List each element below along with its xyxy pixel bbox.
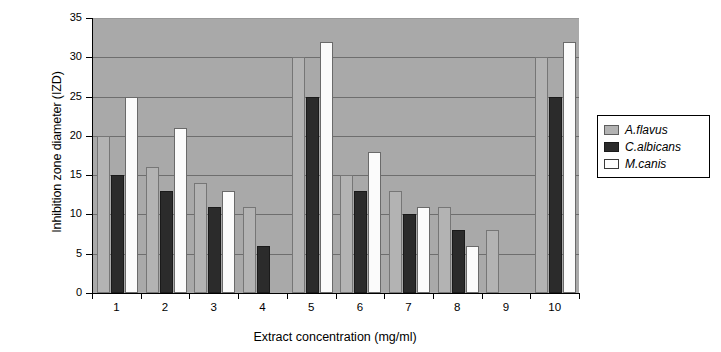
y-tick-label-30: 30 [52,50,82,62]
x-tick-label-6: 6 [340,301,380,313]
bar-a-flavus-10 [535,57,548,293]
y-tick-label-0: 0 [52,286,82,298]
legend-item-c-albicans: C.albicans [604,138,703,155]
x-tick-6 [336,294,337,299]
x-tick-label-4: 4 [242,301,282,313]
bar-c-albicans-6 [354,191,367,293]
bar-a-flavus-5 [292,57,305,293]
x-tick-label-10: 10 [535,301,575,313]
x-tick-1 [92,294,93,299]
y-tick-5 [86,254,92,255]
x-tick-8 [433,294,434,299]
gridline-25 [93,97,579,98]
bar-c-albicans-5 [306,97,319,293]
y-tick-30 [86,57,92,58]
x-tick-label-3: 3 [194,301,234,313]
x-tick-4 [238,294,239,299]
bar-m-canis-7 [417,207,430,293]
bar-c-albicans-2 [160,191,173,293]
bar-c-albicans-4 [257,246,270,293]
y-tick-20 [86,136,92,137]
chart-legend: A.flavus C.albicans M.canis [597,115,710,178]
bar-a-flavus-7 [389,191,402,293]
x-axis-title: Extract concentration (mg/ml) [95,330,575,344]
x-tick-9 [482,294,483,299]
legend-label-a-flavus: A.flavus [625,123,668,137]
bar-chart-figure: Inhibition zone diameter (IZD) Extract c… [0,0,721,352]
y-tick-label-25: 25 [52,90,82,102]
bar-m-canis-3 [222,191,235,293]
y-tick-35 [86,18,92,19]
y-tick-label-15: 15 [52,168,82,180]
bar-a-flavus-3 [194,183,207,293]
x-tick-3 [189,294,190,299]
x-tick-end [579,294,580,299]
y-tick-label-10: 10 [52,207,82,219]
legend-swatch-icon-a-flavus [604,125,619,135]
legend-swatch-icon-m-canis [604,159,619,169]
x-tick-label-2: 2 [145,301,185,313]
bar-a-flavus-9 [486,230,499,293]
y-tick-label-20: 20 [52,129,82,141]
x-tick-10 [530,294,531,299]
bar-m-canis-5 [320,42,333,293]
legend-label-c-albicans: C.albicans [625,140,681,154]
x-tick-label-9: 9 [486,301,526,313]
legend-swatch-icon-c-albicans [604,142,619,152]
y-tick-15 [86,175,92,176]
bar-a-flavus-2 [146,167,159,293]
bar-a-flavus-4 [243,207,256,293]
plot-area [92,18,579,293]
x-tick-label-8: 8 [437,301,477,313]
bar-c-albicans-1 [111,175,124,293]
bar-c-albicans-7 [403,214,416,293]
bar-m-canis-1 [125,97,138,293]
gridline-35 [93,18,579,19]
legend-item-m-canis: M.canis [604,155,703,172]
y-tick-10 [86,214,92,215]
x-tick-label-1: 1 [96,301,136,313]
y-tick-label-5: 5 [52,247,82,259]
bar-a-flavus-6 [340,175,353,293]
legend-item-a-flavus: A.flavus [604,121,703,138]
bar-c-albicans-8 [452,230,465,293]
x-tick-label-5: 5 [291,301,331,313]
bar-m-canis-2 [174,128,187,293]
gridline-20 [93,136,579,137]
x-tick-7 [384,294,385,299]
x-tick-2 [141,294,142,299]
x-tick-label-7: 7 [389,301,429,313]
y-tick-label-35: 35 [52,11,82,23]
x-tick-5 [287,294,288,299]
bar-m-canis-8 [466,246,479,293]
y-tick-25 [86,97,92,98]
bar-a-flavus-1 [97,136,110,293]
bar-a-flavus-8 [438,207,451,293]
bar-m-canis-6 [368,152,381,293]
gridline-30 [93,57,579,58]
bar-m-canis-10 [563,42,576,293]
bar-c-albicans-3 [208,207,221,293]
bar-c-albicans-10 [549,97,562,293]
gridline-15 [93,175,579,176]
legend-label-m-canis: M.canis [625,157,666,171]
